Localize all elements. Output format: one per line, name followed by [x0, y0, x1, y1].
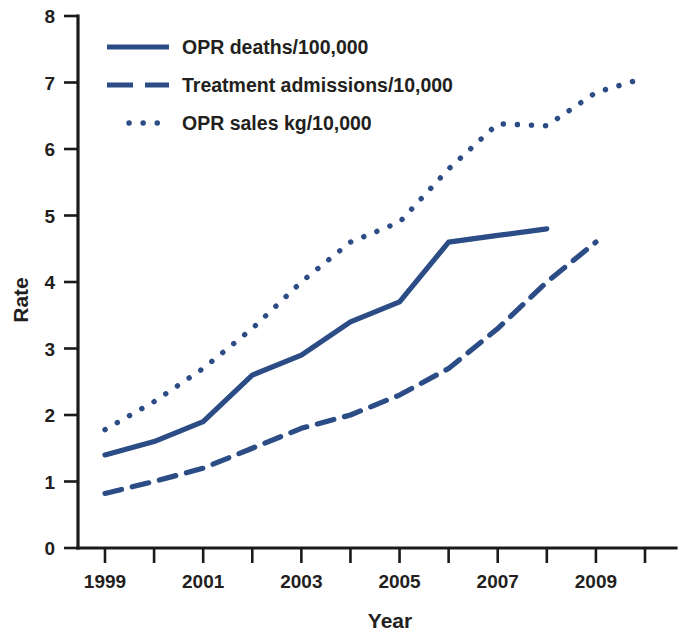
x-tick-label: 2005: [378, 571, 421, 592]
x-axis-tick-labels: 199920012003200520072009: [84, 571, 617, 592]
y-tick-label: 2: [44, 405, 55, 426]
x-tick-label: 2009: [575, 571, 617, 592]
legend-label-0: OPR deaths/100,000: [182, 36, 369, 58]
legend-label-2: OPR sales kg/10,000: [182, 112, 372, 134]
line-chart: 012345678 199920012003200520072009 Rate …: [0, 0, 685, 638]
y-tick-label: 7: [44, 73, 55, 94]
y-tick-label: 3: [44, 339, 55, 360]
series-layer: [105, 78, 645, 494]
legend-label-1: Treatment admissions/10,000: [182, 74, 453, 96]
chart-container: 012345678 199920012003200520072009 Rate …: [0, 0, 685, 638]
y-tick-label: 5: [44, 206, 55, 227]
y-tick-label: 6: [44, 139, 55, 160]
x-tick-label: 2007: [477, 571, 519, 592]
y-tick-label: 1: [44, 472, 55, 493]
x-tick-label: 1999: [84, 571, 126, 592]
y-axis-tick-labels: 012345678: [44, 6, 55, 559]
y-tick-label: 4: [44, 272, 55, 293]
y-axis-ticks: [64, 16, 78, 548]
x-tick-label: 2001: [182, 571, 225, 592]
y-tick-label: 8: [44, 6, 55, 27]
chart-legend: OPR deaths/100,000Treatment admissions/1…: [107, 36, 453, 134]
x-tick-label: 2003: [280, 571, 322, 592]
x-axis-title: Year: [368, 609, 412, 632]
series-line-1: [105, 242, 596, 493]
x-axis-ticks: [105, 548, 645, 563]
y-axis-title: Rate: [9, 277, 32, 323]
y-tick-label: 0: [44, 538, 55, 559]
